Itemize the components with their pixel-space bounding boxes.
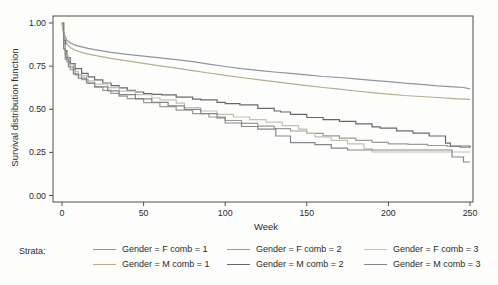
- curve-gender-f-comb-1: [62, 23, 470, 89]
- legend-swatch: [93, 249, 116, 250]
- y-axis-title: Survival distribution function: [9, 28, 20, 188]
- y-tick-label: 0.75: [29, 61, 46, 71]
- x-tick-label: 250: [463, 208, 478, 218]
- legend-swatch: [227, 249, 250, 250]
- y-tick-label: 0.50: [29, 104, 46, 114]
- plot-area: 1.000.750.500.250.00050100150200250: [0, 0, 498, 238]
- legend-label: Gender = M comb = 1: [122, 259, 210, 269]
- legend-label: Gender = M comb = 3: [393, 259, 481, 269]
- y-tick-label: 0.25: [29, 147, 46, 157]
- legend-label: Gender = F comb = 2: [256, 244, 342, 254]
- x-tick-label: 200: [381, 208, 396, 218]
- x-tick-label: 150: [299, 208, 314, 218]
- y-tick-label: 1.00: [29, 18, 46, 28]
- legend-swatch: [364, 264, 387, 265]
- legend-title: Strata:: [19, 246, 46, 256]
- legend-swatch: [364, 249, 387, 250]
- curve-gender-m-comb-3: [62, 23, 470, 162]
- legend-swatch: [93, 264, 116, 265]
- x-tick-label: 50: [139, 208, 149, 218]
- y-tick-label: 0.00: [29, 191, 46, 201]
- curve-gender-m-comb-2: [62, 23, 470, 147]
- legend-item-gender-f-comb-2: Gender = F comb = 2: [227, 243, 342, 255]
- legend-item-gender-f-comb-1: Gender = F comb = 1: [93, 243, 208, 255]
- x-axis-title: Week: [186, 221, 346, 232]
- survival-plot-figure: 1.000.750.500.250.00050100150200250 Week…: [0, 0, 498, 285]
- legend-item-gender-m-comb-3: Gender = M comb = 3: [364, 258, 481, 270]
- legend-label: Gender = M comb = 2: [256, 259, 344, 269]
- legend-item-gender-f-comb-3: Gender = F comb = 3: [364, 243, 479, 255]
- x-tick-label: 0: [60, 208, 65, 218]
- legend-item-gender-m-comb-2: Gender = M comb = 2: [227, 258, 344, 270]
- legend-label: Gender = F comb = 3: [393, 244, 479, 254]
- legend-item-gender-m-comb-1: Gender = M comb = 1: [93, 258, 210, 270]
- legend: Strata: Gender = F comb = 1Gender = M co…: [0, 241, 498, 281]
- legend-swatch: [227, 264, 250, 265]
- legend-label: Gender = F comb = 1: [122, 244, 208, 254]
- x-tick-label: 100: [218, 208, 233, 218]
